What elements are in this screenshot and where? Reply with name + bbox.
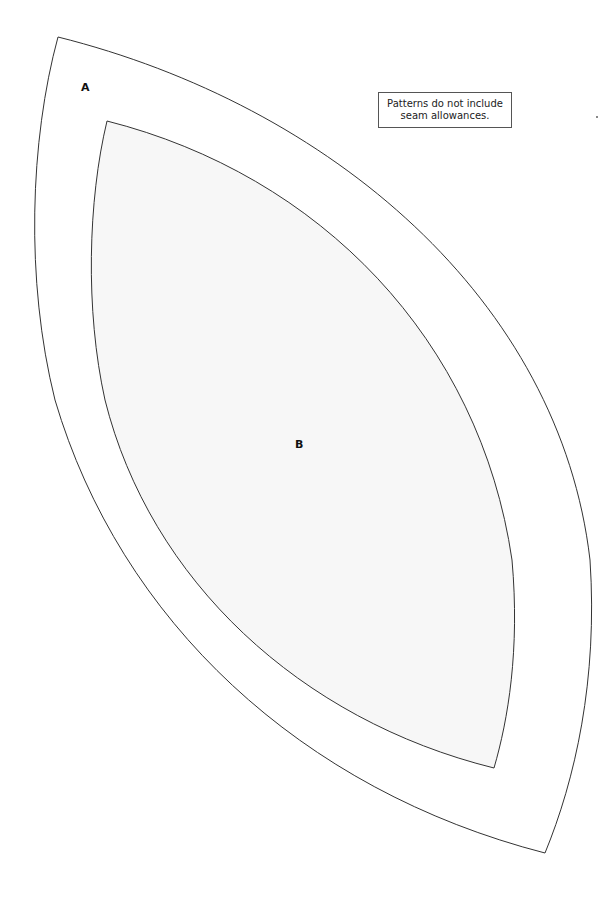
note-line-2: seam allowances. xyxy=(379,110,511,122)
piece-label-a: A xyxy=(81,82,90,93)
stray-mark xyxy=(596,116,598,118)
seam-allowance-note: Patterns do not include seam allowances. xyxy=(378,92,512,128)
note-line-1: Patterns do not include xyxy=(379,98,511,110)
piece-label-b: B xyxy=(295,439,303,450)
